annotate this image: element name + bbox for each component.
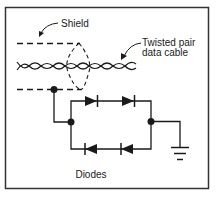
left-junction-dot — [68, 119, 75, 126]
cable-label-line2: data cable — [142, 47, 189, 58]
diode-bottom-1-icon — [85, 143, 97, 155]
shield-cutaway — [67, 43, 90, 89]
drain-wire — [54, 90, 71, 123]
diode-bridge-wiring — [71, 101, 151, 149]
shield-label: Shield — [61, 18, 89, 29]
diode-top-1-icon — [85, 95, 98, 107]
diagram-frame — [6, 8, 209, 189]
diode-top-2-icon — [122, 95, 135, 107]
twisted-pair-cable — [17, 62, 136, 70]
cable-arrow-icon — [121, 43, 141, 60]
ground-icon — [171, 148, 189, 160]
ground-wire — [151, 122, 180, 148]
diodes-label: Diodes — [75, 169, 106, 180]
diagram-canvas: Shield Twisted pair data cable — [0, 0, 216, 197]
diode-bottom-2-icon — [121, 143, 133, 155]
shield-arrow-icon — [39, 23, 58, 37]
